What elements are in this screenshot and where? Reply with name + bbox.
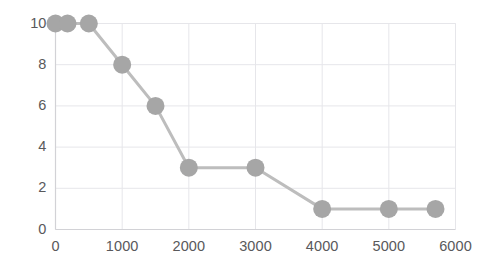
data-line: [56, 24, 436, 209]
data-point-marker: [80, 15, 98, 33]
y-tick-label: 4: [38, 138, 46, 154]
data-point-marker: [147, 97, 165, 115]
data-point-marker: [380, 200, 398, 218]
data-point-marker: [180, 159, 198, 177]
y-tick-label: 6: [38, 97, 46, 113]
y-tick-label: 10: [30, 15, 46, 31]
chart-container: 0246810 0100020003000400050006000: [0, 0, 493, 272]
y-tick-label: 2: [38, 179, 46, 195]
y-tick-label: 8: [38, 56, 46, 72]
data-point-marker: [247, 159, 265, 177]
data-point-marker: [313, 200, 331, 218]
data-point-marker: [427, 200, 445, 218]
data-point-marker: [113, 56, 131, 74]
y-tick-label: 0: [38, 221, 46, 237]
line-chart-plot: [0, 0, 493, 272]
series-line-series-1: [56, 24, 436, 209]
data-point-marker: [59, 15, 77, 33]
x-tick-label: 6000: [416, 238, 493, 254]
